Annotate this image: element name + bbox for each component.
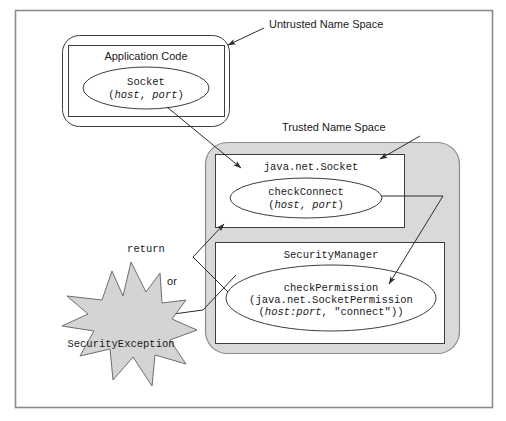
socket-call-ellipse (83, 67, 209, 109)
cc-arg-host: host (274, 199, 299, 211)
socket-call-args: (host, port) (108, 89, 184, 101)
cc-args-sep: , (300, 199, 313, 211)
cc-arg-port: port (311, 199, 337, 211)
socket-arg-host: host (114, 89, 139, 101)
cp-arg-connect: "connect" (334, 306, 391, 318)
socket-call-name: Socket (127, 76, 165, 88)
check-permission-line2: (java.net.SocketPermission (249, 294, 413, 306)
check-connect-args: (host, port) (268, 199, 344, 211)
socket-arg-port: port (151, 89, 177, 101)
trusted-name-space-label: Trusted Name Space (282, 121, 386, 133)
security-flow-diagram: Application Code Socket (host, port) Unt… (0, 0, 506, 421)
cp-arg-hostport: host:port (265, 306, 322, 318)
cp-line3-sep: , (322, 306, 335, 318)
check-connect-name: checkConnect (268, 186, 344, 198)
socket-args-sep: , (140, 89, 153, 101)
check-permission-line3: (host:port, "connect")) (259, 306, 404, 318)
socket-args-close: ) (178, 89, 184, 101)
java-net-socket-title: java.net.Socket (264, 161, 359, 173)
security-exception-label: SecurityException (67, 338, 174, 350)
check-permission-name: checkPermission (284, 282, 379, 294)
return-label: return (127, 243, 165, 255)
check-connect-ellipse (230, 178, 382, 218)
or-label: or (167, 275, 177, 287)
untrusted-name-space-label: Untrusted Name Space (269, 18, 383, 30)
cp-line3-close: )) (391, 306, 404, 318)
diagram-canvas: Application Code Socket (host, port) Unt… (0, 0, 506, 421)
cc-args-close: ) (338, 199, 344, 211)
security-manager-title: SecurityManager (284, 249, 379, 261)
application-code-title: Application Code (104, 50, 187, 62)
